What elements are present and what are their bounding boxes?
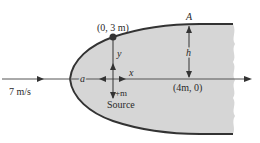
label-source: Source — [107, 99, 135, 110]
label-freestream: 7 m/s — [9, 86, 31, 97]
label-a: a — [80, 73, 85, 84]
stagnation-dot — [110, 34, 117, 41]
label-x: x — [128, 67, 134, 78]
label-axis-point: (4m, 0) — [173, 82, 202, 94]
label-y: y — [116, 48, 122, 59]
label-top-point: (0, 3 m) — [97, 22, 129, 34]
half-body-diagram: (0, 3 m) A h y x a +m Source (4m, 0) 7 m… — [0, 0, 260, 143]
label-h: h — [186, 47, 191, 58]
label-source-strength: +m — [115, 88, 127, 98]
freestream-arrow-icon — [37, 76, 44, 82]
label-A: A — [185, 11, 193, 22]
axis-arrowhead-icon — [244, 76, 252, 82]
